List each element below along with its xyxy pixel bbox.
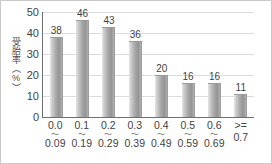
- bar-value-label: 46: [77, 9, 88, 19]
- y-axis-tick-labels: 50403020100: [19, 12, 39, 118]
- bar-slot: 16: [175, 12, 201, 117]
- bar: [102, 27, 115, 117]
- bar: [76, 20, 89, 117]
- bar-slot: 11: [228, 12, 254, 117]
- x-category-upper: 0.49: [151, 138, 171, 149]
- bar: [234, 94, 247, 117]
- bar-value-label: 11: [236, 83, 246, 93]
- x-axis-category: 0.3～0.39: [122, 120, 149, 162]
- bar-value-label: 16: [183, 72, 194, 82]
- x-category-upper: 0.69: [204, 138, 224, 149]
- x-axis-category: 0.5～0.59: [175, 120, 202, 162]
- x-axis-category: 0.1～0.19: [69, 120, 96, 162]
- x-axis-category: >=0.7: [228, 120, 255, 162]
- bar-slot: 36: [122, 12, 148, 117]
- bar: [50, 37, 63, 117]
- bar-slot: 46: [69, 12, 95, 117]
- bar: [182, 83, 195, 117]
- bar-value-label: 38: [51, 26, 62, 36]
- bar-slot: 16: [201, 12, 227, 117]
- plot-area: 3846433620161611: [42, 12, 254, 118]
- bar: [208, 83, 221, 117]
- y-axis-tick-label: 40: [27, 28, 39, 39]
- bar-slot: 20: [149, 12, 175, 117]
- x-category-upper: 0.7: [233, 132, 248, 143]
- bar-value-label: 16: [209, 72, 220, 82]
- chart-figure: 受胎率（%） 50403020100 3846433620161611 0.0～…: [0, 0, 272, 164]
- bar-slot: 43: [96, 12, 122, 117]
- y-axis-tick-label: 30: [27, 49, 39, 60]
- y-axis-tick-label: 10: [27, 91, 39, 102]
- x-axis-category: 0.4～0.49: [148, 120, 175, 162]
- bar: [155, 75, 168, 117]
- bar: [129, 41, 142, 117]
- bar-value-label: 36: [130, 30, 141, 40]
- x-category-upper: 0.39: [125, 138, 145, 149]
- x-axis-category: 0.6～0.69: [201, 120, 228, 162]
- bar-value-label: 43: [103, 16, 114, 26]
- x-axis-category: 0.2～0.29: [95, 120, 122, 162]
- bar-series: 3846433620161611: [43, 12, 254, 117]
- x-category-lower: >=: [235, 120, 247, 131]
- bar-value-label: 20: [156, 64, 167, 74]
- x-category-upper: 0.09: [45, 138, 65, 149]
- y-axis-tick-label: 0: [33, 112, 39, 123]
- bar-slot: 38: [43, 12, 69, 117]
- y-axis-tick-label: 20: [27, 70, 39, 81]
- x-category-upper: 0.59: [178, 138, 198, 149]
- x-category-upper: 0.19: [72, 138, 92, 149]
- y-axis-tick-label: 50: [27, 7, 39, 18]
- x-axis-tick-labels: 0.0～0.090.1～0.190.2～0.290.3～0.390.4～0.49…: [42, 120, 254, 162]
- x-category-upper: 0.29: [98, 138, 118, 149]
- x-axis-category: 0.0～0.09: [42, 120, 69, 162]
